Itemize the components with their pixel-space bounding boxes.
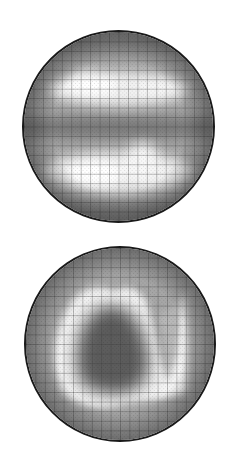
wafer-map-top-heatmap (24, 32, 213, 221)
wafer-map-bottom-heatmap (26, 248, 214, 440)
wafer-map-bottom (24, 246, 216, 442)
wafer-map-top (22, 30, 215, 223)
